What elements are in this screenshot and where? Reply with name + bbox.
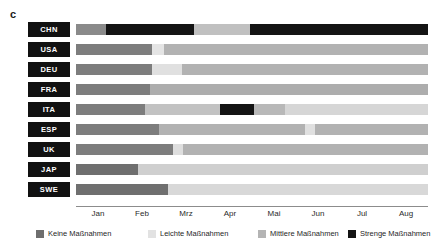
figure-panel-c: c CHNUSADEUFRAITAESPUKJAPSWE Keine Maßna… bbox=[0, 0, 442, 250]
bar-track-deu bbox=[76, 64, 428, 75]
bar-segment-mittlere bbox=[183, 144, 428, 155]
country-label-usa: USA bbox=[28, 42, 70, 57]
legend-label-keine: Keine Maßnahmen bbox=[48, 229, 111, 238]
legend-item-keine: Keine Maßnahmen bbox=[36, 227, 111, 240]
bar-segment-leichte bbox=[173, 144, 184, 155]
legend-label-mittlere: Mittlere Maßnahmen bbox=[270, 229, 339, 238]
bar-track-chn bbox=[76, 24, 428, 35]
bar-segment-keine bbox=[76, 64, 152, 75]
x-tick-label: Jul bbox=[357, 209, 367, 218]
bar-segment-leichte bbox=[305, 124, 316, 135]
legend-label-leichte: Leichte Maßnahmen bbox=[160, 229, 228, 238]
bar-segment-leichte bbox=[152, 64, 182, 75]
x-tick-label: Jan bbox=[92, 209, 105, 218]
chart-row-usa: USA bbox=[0, 42, 442, 58]
bar-segment-mittlere bbox=[194, 24, 250, 35]
chart-row-deu: DEU bbox=[0, 62, 442, 78]
bar-segment-keine bbox=[76, 84, 150, 95]
bar-segment-keine bbox=[76, 24, 106, 35]
bar-segment-leichte bbox=[168, 184, 428, 195]
chart-row-chn: CHN bbox=[0, 22, 442, 38]
x-tick-label: Apr bbox=[224, 209, 236, 218]
bar-track-jap bbox=[76, 164, 428, 175]
bar-segment-mittlere bbox=[145, 104, 221, 115]
bar-segment-keine bbox=[76, 184, 168, 195]
bar-segment-leichte bbox=[152, 44, 164, 55]
bar-segment-leichte bbox=[285, 104, 428, 115]
bar-segment-keine bbox=[76, 104, 145, 115]
legend-item-mittlere: Mittlere Maßnahmen bbox=[258, 227, 339, 240]
x-tick-label: Mrz bbox=[179, 209, 192, 218]
bar-segment-keine bbox=[76, 164, 138, 175]
bar-segment-mittlere bbox=[182, 64, 428, 75]
bar-track-ita bbox=[76, 104, 428, 115]
country-label-jap: JAP bbox=[28, 162, 70, 177]
chart-row-swe: SWE bbox=[0, 182, 442, 198]
legend-swatch-mittlere bbox=[258, 230, 266, 238]
bar-segment-mittlere bbox=[150, 84, 428, 95]
country-label-uk: UK bbox=[28, 142, 70, 157]
bar-segment-mittlere bbox=[254, 104, 286, 115]
bar-segment-keine bbox=[76, 144, 173, 155]
chart-row-jap: JAP bbox=[0, 162, 442, 178]
legend-item-leichte: Leichte Maßnahmen bbox=[148, 227, 228, 240]
bar-segment-keine bbox=[76, 124, 159, 135]
bar-segment-keine bbox=[76, 44, 152, 55]
bar-segment-mittlere bbox=[164, 44, 428, 55]
bar-segment-leichte bbox=[138, 164, 428, 175]
chart-plot-area: CHNUSADEUFRAITAESPUKJAPSWE bbox=[0, 0, 442, 250]
bar-track-usa bbox=[76, 44, 428, 55]
bar-track-swe bbox=[76, 184, 428, 195]
bar-segment-mittlere bbox=[315, 124, 428, 135]
legend-item-strenge: Strenge Maßnahmen bbox=[348, 227, 430, 240]
x-tick-label: Aug bbox=[399, 209, 413, 218]
legend-swatch-strenge bbox=[348, 230, 356, 238]
bar-track-uk bbox=[76, 144, 428, 155]
bar-segment-mittlere bbox=[159, 124, 305, 135]
bar-segment-strenge bbox=[220, 104, 253, 115]
bar-track-fra bbox=[76, 84, 428, 95]
country-label-swe: SWE bbox=[28, 182, 70, 197]
chart-row-uk: UK bbox=[0, 142, 442, 158]
x-tick-label: Feb bbox=[135, 209, 149, 218]
country-label-chn: CHN bbox=[28, 22, 70, 37]
bar-segment-strenge bbox=[250, 24, 428, 35]
country-label-esp: ESP bbox=[28, 122, 70, 137]
chart-row-ita: ITA bbox=[0, 102, 442, 118]
x-axis-line bbox=[76, 206, 428, 207]
legend-swatch-keine bbox=[36, 230, 44, 238]
legend-label-strenge: Strenge Maßnahmen bbox=[360, 229, 430, 238]
x-tick-label: Mai bbox=[268, 209, 281, 218]
x-tick-label: Jun bbox=[312, 209, 325, 218]
chart-row-fra: FRA bbox=[0, 82, 442, 98]
bar-track-esp bbox=[76, 124, 428, 135]
legend-swatch-leichte bbox=[148, 230, 156, 238]
chart-row-esp: ESP bbox=[0, 122, 442, 138]
country-label-deu: DEU bbox=[28, 62, 70, 77]
country-label-fra: FRA bbox=[28, 82, 70, 97]
country-label-ita: ITA bbox=[28, 102, 70, 117]
chart-legend: Keine MaßnahmenLeichte MaßnahmenMittlere… bbox=[0, 227, 442, 241]
bar-segment-strenge bbox=[106, 24, 194, 35]
